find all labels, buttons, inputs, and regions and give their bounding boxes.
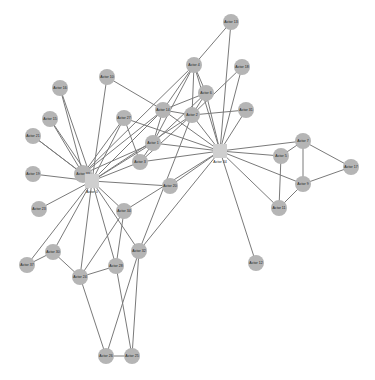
edge bbox=[33, 136, 83, 174]
graph-node[interactable]: Actor 25 bbox=[124, 348, 140, 364]
hub-node[interactable]: Actor 0 bbox=[85, 174, 99, 194]
node-label: Actor 21 bbox=[26, 134, 39, 138]
graph-node[interactable]: Actor 19 bbox=[25, 166, 41, 182]
node-label: Actor 7 bbox=[297, 139, 308, 143]
node-label: Actor 27 bbox=[117, 116, 130, 120]
network-graph: Actor 33Actor 13Actor 4Actor 18Actor 6Ac… bbox=[0, 0, 375, 380]
graph-node[interactable]: Actor 2 bbox=[184, 107, 200, 123]
node-label: Actor 32 bbox=[132, 249, 145, 253]
node-label: Actor 37 bbox=[20, 263, 33, 267]
graph-node[interactable]: Actor 18 bbox=[234, 59, 250, 75]
graph-node[interactable]: Actor 23 bbox=[31, 201, 47, 217]
graph-node[interactable]: Actor 32 bbox=[131, 243, 147, 259]
node-label: Actor 18 bbox=[235, 65, 248, 69]
node-label: Actor 26 bbox=[99, 354, 112, 358]
hub-label: Actor 0 bbox=[86, 190, 97, 194]
graph-node[interactable]: Actor 16 bbox=[52, 80, 68, 96]
graph-node[interactable]: Actor 14 bbox=[155, 102, 171, 118]
node-label: Actor 31 bbox=[239, 108, 252, 112]
hub-node[interactable]: Actor 34 bbox=[213, 144, 227, 164]
graph-node[interactable]: Actor 15 bbox=[42, 111, 58, 127]
node-label: Actor 23 bbox=[32, 207, 45, 211]
node-label: Actor 12 bbox=[249, 261, 262, 265]
node-label: Actor 14 bbox=[156, 108, 169, 112]
edge bbox=[163, 65, 194, 110]
edge bbox=[220, 151, 303, 184]
node-label: Actor 5 bbox=[275, 154, 286, 158]
edge bbox=[194, 22, 231, 65]
node-label: Actor 17 bbox=[344, 165, 357, 169]
node-label: Actor 28 bbox=[109, 264, 122, 268]
graph-node[interactable]: Actor 9 bbox=[295, 176, 311, 192]
graph-node[interactable]: Actor 1 bbox=[145, 135, 161, 151]
graph-node[interactable]: Actor 34 bbox=[116, 203, 132, 219]
graph-node[interactable]: Actor 30 bbox=[45, 244, 61, 260]
hub-square bbox=[85, 174, 99, 188]
graph-node[interactable]: Actor 4 bbox=[186, 57, 202, 73]
edge bbox=[92, 181, 139, 251]
graph-node[interactable]: Actor 13 bbox=[223, 14, 239, 30]
node-label: Actor 30 bbox=[46, 250, 59, 254]
graph-node[interactable]: Actor 3 bbox=[132, 154, 148, 170]
graph-node[interactable]: Actor 20 bbox=[162, 178, 178, 194]
node-label: Actor 1 bbox=[147, 141, 158, 145]
graph-node[interactable]: Actor 12 bbox=[248, 255, 264, 271]
edge bbox=[303, 141, 351, 167]
node-label: Actor 16 bbox=[53, 86, 66, 90]
graph-node[interactable]: Actor 27 bbox=[116, 110, 132, 126]
node-label: Actor 19 bbox=[26, 172, 39, 176]
edge bbox=[107, 77, 163, 110]
node-label: Actor 15 bbox=[43, 117, 56, 121]
edge bbox=[194, 65, 220, 151]
hub-square bbox=[213, 144, 227, 158]
node-label: Actor 3 bbox=[134, 160, 145, 164]
node-label: Actor 20 bbox=[163, 184, 176, 188]
edge bbox=[140, 151, 220, 162]
node-label: Actor 4 bbox=[188, 63, 199, 67]
graph-node[interactable]: Actor 26 bbox=[98, 348, 114, 364]
graph-node[interactable]: Actor 10 bbox=[99, 69, 115, 85]
node-label: Actor 10 bbox=[100, 75, 113, 79]
graph-node[interactable]: Actor 7 bbox=[295, 133, 311, 149]
graph-node[interactable]: Actor 6 bbox=[198, 85, 214, 101]
hub-label: Actor 34 bbox=[213, 160, 226, 164]
edge bbox=[92, 181, 170, 186]
edge bbox=[50, 119, 83, 174]
node-label: Actor 24 bbox=[73, 275, 86, 279]
node-label: Actor 13 bbox=[224, 20, 237, 24]
edge bbox=[139, 151, 220, 251]
node-label: Actor 34 bbox=[117, 209, 130, 213]
graph-node[interactable]: Actor 21 bbox=[25, 128, 41, 144]
graph-node[interactable]: Actor 17 bbox=[343, 159, 359, 175]
edge bbox=[60, 88, 83, 174]
graph-node[interactable]: Actor 24 bbox=[72, 269, 88, 285]
graph-node[interactable]: Actor 11 bbox=[271, 200, 287, 216]
edge bbox=[80, 277, 106, 356]
graph-node[interactable]: Actor 37 bbox=[19, 257, 35, 273]
node-label: Actor 6 bbox=[200, 91, 211, 95]
node-label: Actor 11 bbox=[272, 206, 285, 210]
edge bbox=[192, 110, 246, 115]
graph-node[interactable]: Actor 28 bbox=[108, 258, 124, 274]
graph-node[interactable]: Actor 31 bbox=[238, 102, 254, 118]
node-label: Actor 2 bbox=[186, 113, 197, 117]
graph-node[interactable]: Actor 5 bbox=[273, 148, 289, 164]
edge bbox=[220, 151, 281, 156]
node-label: Actor 25 bbox=[125, 354, 138, 358]
edge bbox=[132, 251, 139, 356]
node-label: Actor 9 bbox=[297, 182, 308, 186]
